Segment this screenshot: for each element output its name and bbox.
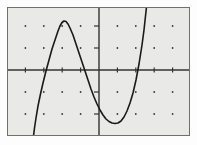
function-curve [34,8,147,135]
plot-frame [7,7,190,136]
calculator-screen [0,0,197,145]
plot-canvas [8,8,189,135]
